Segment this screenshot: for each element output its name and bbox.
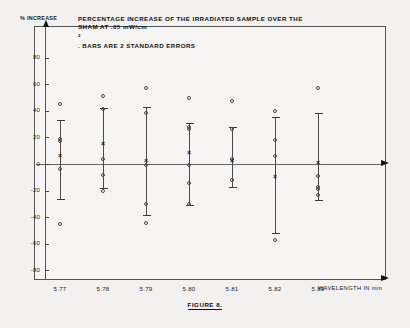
- zero-baseline: [36, 164, 384, 165]
- data-point: [58, 102, 62, 106]
- y-axis-arrow-icon: [43, 20, 49, 27]
- y-tick-label: -80: [18, 267, 40, 273]
- data-point: [187, 163, 191, 167]
- x-tick-label: 5.80: [174, 285, 204, 292]
- data-point: [273, 238, 277, 242]
- figure-caption: FIGURE 8.: [0, 301, 410, 308]
- x-tick-label: 5.82: [260, 285, 290, 292]
- data-point: [144, 221, 148, 225]
- data-point: [58, 222, 62, 226]
- y-tick: [45, 217, 49, 218]
- group-mean-marker: [272, 174, 278, 180]
- error-bar-cap: [57, 120, 65, 121]
- error-bar: [60, 120, 61, 198]
- y-tick-label: -20: [18, 187, 40, 193]
- data-point: [101, 173, 105, 177]
- data-point: [187, 181, 191, 185]
- data-point: [101, 94, 105, 98]
- y-axis-label: % INCREASE: [20, 15, 57, 21]
- error-bar-cap: [229, 187, 237, 188]
- error-bar-cap: [315, 113, 323, 114]
- group-mean-marker: [143, 158, 149, 164]
- data-point: [273, 154, 277, 158]
- y-tick: [45, 191, 49, 192]
- error-bar-cap: [186, 123, 194, 124]
- error-bar-cap: [315, 200, 323, 201]
- data-point: [144, 202, 148, 206]
- data-point: [316, 187, 320, 191]
- y-axis-line: [45, 27, 46, 279]
- data-point: [273, 109, 277, 113]
- chart-title-line-1: PERCENTAGE INCREASE OF THE IRRADIATED SA…: [78, 15, 358, 23]
- x-tick-label: 5.83: [303, 285, 333, 292]
- plot-frame: [34, 26, 386, 280]
- x-tick-label: 5.77: [45, 285, 75, 292]
- y-tick-label: 40: [18, 107, 40, 113]
- data-point: [230, 178, 234, 182]
- y-tick: [45, 137, 49, 138]
- y-tick: [45, 84, 49, 85]
- error-bar-cap: [57, 199, 65, 200]
- group-mean-marker: [315, 160, 321, 166]
- y-tick: [45, 270, 49, 271]
- y-tick-label: 80: [18, 54, 40, 60]
- data-point: [58, 167, 62, 171]
- chart-title-superscript: 2: [78, 33, 81, 38]
- group-mean-marker: [100, 141, 106, 147]
- y-tick: [45, 164, 49, 165]
- x-tick-label: 5.81: [217, 285, 247, 292]
- data-point: [316, 86, 320, 90]
- y-tick-label: -40: [18, 214, 40, 220]
- y-tick-label: -60: [18, 240, 40, 246]
- chart-title-line-2-text-a: SHAM AT .05 mW/cm: [78, 23, 358, 31]
- y-tick: [45, 58, 49, 59]
- chart-title-line-2-text-b: . BARS ARE 2 STANDARD ERRORS: [78, 42, 358, 50]
- y-tick-label: 60: [18, 81, 40, 87]
- data-point: [187, 96, 191, 100]
- error-bar-cap: [143, 215, 151, 216]
- chart-title: PERCENTAGE INCREASE OF THE IRRADIATED SA…: [78, 15, 358, 51]
- group-mean-marker: [186, 150, 192, 156]
- data-point: [101, 189, 105, 193]
- group-mean-marker: [57, 153, 63, 159]
- error-bar-cap: [272, 117, 280, 118]
- data-point: [101, 157, 105, 161]
- error-bar-cap: [272, 233, 280, 234]
- data-point: [144, 86, 148, 90]
- zero-baseline-arrow-icon: [381, 160, 389, 166]
- error-bar-cap: [143, 107, 151, 108]
- x-tick-label: 5.78: [88, 285, 118, 292]
- x-axis-line: [36, 279, 384, 280]
- data-point: [187, 202, 191, 206]
- y-tick-label: 20: [18, 134, 40, 140]
- x-tick-label: 5.79: [131, 285, 161, 292]
- figure-8-chart: PERCENTAGE INCREASE OF THE IRRADIATED SA…: [0, 0, 410, 328]
- chart-title-line-2: SHAM AT .05 mW/cm2. BARS ARE 2 STANDARD …: [78, 23, 358, 50]
- data-point: [58, 139, 62, 143]
- data-point: [273, 138, 277, 142]
- y-tick-label: 0: [18, 161, 40, 167]
- x-axis-arrow-icon: [381, 275, 389, 281]
- y-tick: [45, 244, 49, 245]
- group-mean-marker: [229, 158, 235, 164]
- data-point: [316, 193, 320, 197]
- data-point: [316, 174, 320, 178]
- y-tick: [45, 111, 49, 112]
- figure-caption-text: FIGURE 8.: [188, 301, 223, 310]
